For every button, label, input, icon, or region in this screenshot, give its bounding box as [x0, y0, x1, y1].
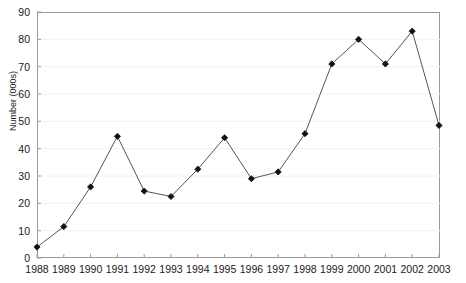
data-line — [37, 31, 439, 247]
x-tick-label-1999: 1999 — [320, 264, 343, 275]
x-tick-label-2003: 2003 — [427, 264, 450, 275]
x-tick-label-2002: 2002 — [401, 264, 424, 275]
data-point-1998[interactable] — [302, 131, 308, 137]
chart-title-clipped — [0, 0, 466, 3]
data-point-1992[interactable] — [141, 188, 147, 194]
y-tick-label-2: 20 — [18, 198, 30, 209]
x-axis-tick-labels: 1988198919901991199219931994199519961997… — [0, 262, 466, 283]
line-chart: Number (000s) 0102030405060708090 198819… — [0, 0, 466, 283]
data-point-1990[interactable] — [88, 184, 94, 190]
x-tick-label-1995: 1995 — [213, 264, 236, 275]
y-tick-label-7: 70 — [18, 61, 30, 72]
x-tick-label-1994: 1994 — [186, 264, 209, 275]
data-point-1996[interactable] — [248, 176, 254, 182]
y-axis-tick-labels: 0102030405060708090 — [0, 0, 34, 283]
plot-canvas — [37, 12, 440, 258]
x-tick-label-1993: 1993 — [159, 264, 182, 275]
x-tick-label-1996: 1996 — [240, 264, 263, 275]
data-point-1997[interactable] — [275, 169, 281, 175]
x-tick-label-1998: 1998 — [293, 264, 316, 275]
x-tick-label-1990: 1990 — [79, 264, 102, 275]
y-tick-label-8: 80 — [18, 34, 30, 45]
y-tick-label-1: 10 — [18, 225, 30, 236]
y-tick-label-6: 60 — [18, 89, 30, 100]
x-tick-label-1991: 1991 — [106, 264, 129, 275]
y-tick-label-3: 30 — [18, 171, 30, 182]
x-tick-label-2000: 2000 — [347, 264, 370, 275]
data-point-1991[interactable] — [114, 133, 120, 139]
x-tick-label-1989: 1989 — [52, 264, 75, 275]
y-tick-label-4: 40 — [18, 143, 30, 154]
y-tick-label-9: 90 — [18, 7, 30, 18]
x-tick-label-2001: 2001 — [374, 264, 397, 275]
x-tick-label-1992: 1992 — [133, 264, 156, 275]
x-tick-label-1997: 1997 — [267, 264, 290, 275]
y-tick-label-5: 50 — [18, 116, 30, 127]
data-point-2003[interactable] — [436, 122, 442, 128]
x-tick-label-1988: 1988 — [25, 264, 48, 275]
